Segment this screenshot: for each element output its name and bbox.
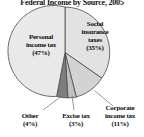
slice-label-excise-line1: Excise tax [56, 112, 96, 120]
leader-line-other [43, 97, 61, 111]
pie-chart-figure: Federal Income by Source, 2005 Personal … [0, 0, 144, 137]
slice-label-corporate-line1: Corporate [96, 104, 144, 112]
slice-label-corporate-income-tax: Corporate income tax (11%) [96, 104, 144, 128]
slice-label-corporate-line2: income tax [96, 112, 144, 120]
slice-label-excise-percent: (3%) [56, 120, 96, 128]
slice-label-other-percent: (4%) [15, 120, 45, 128]
slice-label-other-line1: Other [15, 112, 45, 120]
slice-label-corporate-percent: (11%) [96, 120, 144, 128]
slice-label-personal-line2: income tax [12, 41, 70, 49]
slice-label-social-line3: taxes [72, 36, 118, 44]
slice-label-social-line2: insurance [72, 28, 118, 36]
slice-label-social-insurance-taxes: Social insurance taxes (35%) [72, 20, 118, 52]
slice-label-personal-percent: (47%) [12, 49, 70, 57]
slice-label-social-percent: (35%) [72, 44, 118, 52]
slice-label-personal-income-tax: Personal income tax (47%) [12, 33, 70, 57]
slice-label-other: Other (4%) [15, 112, 45, 128]
slice-label-personal-line1: Personal [12, 33, 70, 41]
slice-label-excise-tax: Excise tax (3%) [56, 112, 96, 128]
slice-label-social-line1: Social [72, 20, 118, 28]
